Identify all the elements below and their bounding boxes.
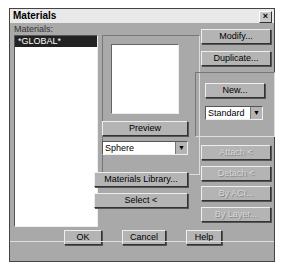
preview-pane: [111, 44, 179, 114]
detach-button[interactable]: Detach <: [201, 166, 271, 181]
close-button[interactable]: ×: [259, 11, 272, 23]
list-item-global[interactable]: *GLOBAL*: [15, 36, 97, 47]
new-group: [195, 72, 275, 137]
materials-list-label: Materials:: [14, 24, 53, 34]
material-type-select[interactable]: Standard ▼: [205, 106, 263, 120]
modify-button[interactable]: Modify...: [201, 29, 271, 44]
chevron-down-icon: ▼: [175, 142, 187, 154]
divider: [10, 241, 274, 242]
materials-list[interactable]: *GLOBAL*: [14, 35, 98, 227]
preview-shape-select[interactable]: Sphere ▼: [102, 141, 188, 155]
help-button[interactable]: Help: [186, 230, 222, 245]
ok-button[interactable]: OK: [64, 230, 102, 245]
chevron-down-icon: ▼: [250, 107, 262, 119]
dialog-title: Materials: [13, 10, 56, 21]
select-button[interactable]: Select <: [94, 193, 188, 208]
preview-button[interactable]: Preview: [102, 121, 188, 136]
attach-button[interactable]: Attach <: [201, 145, 271, 160]
title-bar: Materials ×: [10, 9, 274, 23]
cancel-button[interactable]: Cancel: [122, 230, 166, 245]
by-aci-button[interactable]: By ACI...: [201, 186, 271, 201]
duplicate-button[interactable]: Duplicate...: [201, 51, 271, 66]
by-layer-button[interactable]: By Layer...: [201, 207, 271, 222]
materials-library-button[interactable]: Materials Library...: [94, 172, 188, 187]
materials-dialog: Materials × Materials: *GLOBAL* Preview …: [9, 8, 275, 262]
new-button[interactable]: New...: [205, 83, 265, 98]
close-icon: ×: [263, 11, 268, 21]
